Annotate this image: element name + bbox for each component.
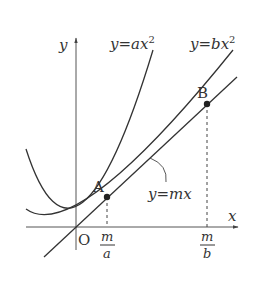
diagram-canvas: y x O y=ax2 y=bx2 y=mx A B m a m b	[0, 0, 263, 281]
label-leader	[150, 158, 166, 182]
point-A	[104, 194, 110, 200]
svg-text:m: m	[101, 229, 113, 244]
parabola-a-label: y=ax2	[109, 34, 155, 53]
parabola-b-label: y=bx2	[189, 34, 235, 53]
svg-text:a: a	[103, 246, 111, 261]
tick-m-over-a: m a	[100, 229, 115, 261]
parabola-a-curve	[26, 50, 153, 208]
diagram: y x O y=ax2 y=bx2 y=mx A B m a m b	[0, 0, 263, 281]
point-A-label: A	[92, 178, 104, 196]
origin-label: O	[78, 231, 90, 249]
x-axis-label: x	[228, 207, 237, 225]
line-m-label: y=mx	[147, 185, 192, 203]
parabola-b-curve	[26, 50, 233, 215]
tick-m-over-b: m b	[200, 229, 215, 261]
point-B-label: B	[197, 84, 208, 102]
svg-text:m: m	[201, 229, 213, 244]
y-axis-label: y	[58, 36, 68, 54]
svg-text:b: b	[203, 246, 211, 261]
